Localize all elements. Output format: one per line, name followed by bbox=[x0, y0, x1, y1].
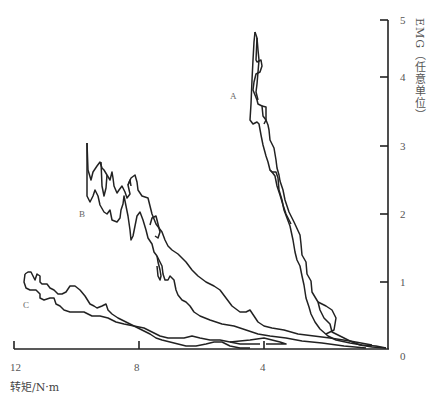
y-tick-0: 0 bbox=[400, 350, 406, 362]
curve-label-a: A bbox=[230, 91, 237, 101]
curve-a bbox=[250, 32, 386, 348]
curve-label-b: B bbox=[79, 209, 85, 219]
x-tick-12: 12 bbox=[10, 361, 21, 373]
curve-c bbox=[24, 272, 286, 348]
x-tick-8: 8 bbox=[134, 361, 140, 373]
y-tick-3: 3 bbox=[400, 140, 406, 152]
curve-b bbox=[87, 143, 372, 348]
curve-label-c: C bbox=[23, 300, 29, 310]
y-axis-title: EMG（任意单位） bbox=[412, 18, 426, 121]
y-tick-2: 2 bbox=[400, 208, 406, 220]
y-tick-1: 1 bbox=[400, 276, 406, 288]
axes bbox=[14, 20, 389, 349]
y-tick-5: 5 bbox=[400, 14, 406, 26]
y-tick-4: 4 bbox=[400, 71, 406, 83]
x-axis-title: 转矩/N·m bbox=[10, 378, 59, 394]
emg-torque-chart bbox=[0, 0, 439, 403]
x-tick-4: 4 bbox=[260, 361, 266, 373]
